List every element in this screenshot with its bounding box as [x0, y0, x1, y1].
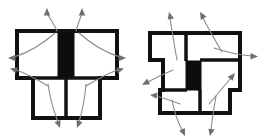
center-black-bar — [186, 61, 201, 90]
right-sectional-figure — [142, 12, 258, 136]
flow-arrow-up-left — [44, 8, 57, 31]
upper-center-black-bar — [58, 33, 74, 78]
flow-arrow-up-right — [76, 8, 85, 31]
diagram-canvas — [0, 0, 267, 138]
left-sectional-figure — [8, 8, 126, 128]
